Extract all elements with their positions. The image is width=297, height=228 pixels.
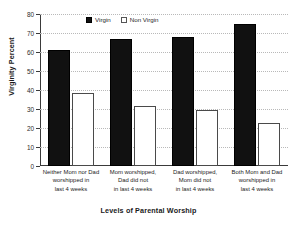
y-axis-tick-label: 20 bbox=[27, 125, 34, 132]
legend-label-non-virgin: Non Virgin bbox=[130, 16, 159, 23]
legend-item-virgin: Virgin bbox=[86, 16, 111, 23]
bar-non-virgin bbox=[196, 110, 218, 166]
x-axis-category-label: Both Mom and Dadworshipped inlast 4 week… bbox=[226, 168, 288, 193]
x-axis-label-line: last 4 weeks bbox=[226, 185, 288, 193]
y-axis-tick-label: 30 bbox=[27, 106, 34, 113]
x-axis-label-line: last 4 weeks bbox=[40, 185, 102, 193]
chart-legend: Virgin Non Virgin bbox=[86, 16, 159, 23]
x-axis-category-label: Dad worshipped,Mom did notin last 4 week… bbox=[164, 168, 226, 193]
y-axis-tick-label: 70 bbox=[27, 30, 34, 37]
legend-label-virgin: Virgin bbox=[95, 16, 111, 23]
x-axis-label-line: Dad did not bbox=[102, 176, 164, 184]
x-axis-title: Levels of Parental Worship bbox=[0, 206, 297, 215]
bar-non-virgin bbox=[134, 106, 156, 166]
x-axis-category-labels: Neither Mom nor Dadworshipped inlast 4 w… bbox=[40, 168, 288, 202]
x-axis-label-line: in last 4 weeks bbox=[164, 185, 226, 193]
x-axis-label-line: Neither Mom nor Dad bbox=[40, 168, 102, 176]
y-axis-tick-label: 0 bbox=[30, 163, 34, 170]
x-axis-label-line: in last 4 weeks bbox=[102, 185, 164, 193]
x-axis-label-line: Mom worshipped, bbox=[102, 168, 164, 176]
bar-virgin bbox=[48, 50, 70, 166]
y-axis-tick bbox=[36, 166, 40, 167]
y-axis-tick-label: 60 bbox=[27, 49, 34, 56]
legend-item-non-virgin: Non Virgin bbox=[121, 16, 159, 23]
x-axis-label-line: Dad worshipped, bbox=[164, 168, 226, 176]
y-axis-title: Virginity Percent bbox=[7, 12, 16, 122]
x-axis-category-label: Neither Mom nor Dadworshipped inlast 4 w… bbox=[40, 168, 102, 193]
y-axis-tick-label: 10 bbox=[27, 144, 34, 151]
x-axis-label-line: worshipped in bbox=[40, 176, 102, 184]
bar-group bbox=[102, 14, 164, 166]
bar-group bbox=[40, 14, 102, 166]
bar-virgin bbox=[172, 37, 194, 166]
bars-layer bbox=[40, 14, 288, 166]
bar-virgin bbox=[234, 24, 256, 166]
plot-area: 01020304050607080 bbox=[40, 14, 288, 166]
bar-non-virgin bbox=[258, 123, 280, 166]
bar-non-virgin bbox=[72, 93, 94, 166]
y-axis-tick-label: 50 bbox=[27, 68, 34, 75]
x-axis-label-line: Mom did not bbox=[164, 176, 226, 184]
bar-chart: Virginity Percent 01020304050607080 Virg… bbox=[0, 0, 297, 228]
legend-swatch-icon-virgin bbox=[86, 17, 92, 23]
x-axis-category-label: Mom worshipped,Dad did notin last 4 week… bbox=[102, 168, 164, 193]
bar-group bbox=[226, 14, 288, 166]
x-axis-label-line: worshipped in bbox=[226, 176, 288, 184]
bar-virgin bbox=[110, 39, 132, 166]
legend-swatch-icon-non-virgin bbox=[121, 17, 127, 23]
bar-group bbox=[164, 14, 226, 166]
y-axis-tick-label: 80 bbox=[27, 11, 34, 18]
x-axis-label-line: Both Mom and Dad bbox=[226, 168, 288, 176]
y-axis-tick-label: 40 bbox=[27, 87, 34, 94]
